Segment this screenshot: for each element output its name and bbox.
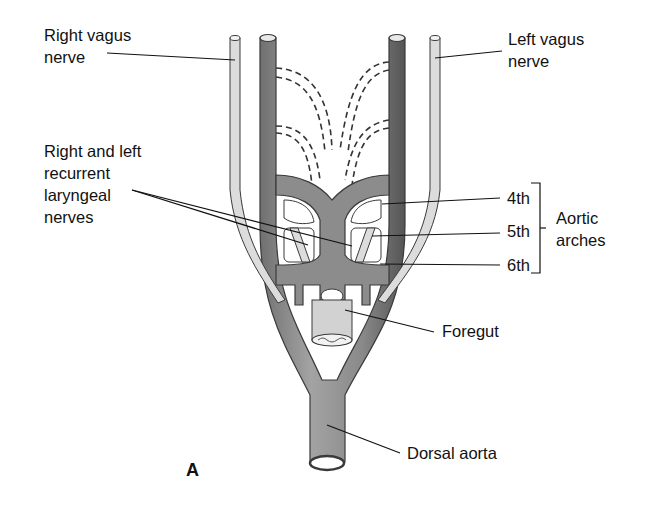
label-foregut: Foregut <box>442 320 499 342</box>
label-right-vagus-nerve: Right vagus nerve <box>44 24 131 68</box>
label-4th-arch: 4th <box>507 187 530 209</box>
label-5th-arch: 5th <box>507 220 530 242</box>
panel-letter: A <box>186 460 199 481</box>
regressed-arches-dashed <box>276 62 389 185</box>
label-6th-arch: 6th <box>507 254 530 276</box>
label-left-vagus-nerve: Left vagus nerve <box>508 28 584 72</box>
label-aortic-arches: Aortic arches <box>556 207 606 251</box>
label-recurrent-laryngeal-nerves: Right and left recurrent laryngeal nerve… <box>44 140 141 228</box>
label-dorsal-aorta: Dorsal aorta <box>407 442 497 464</box>
foregut <box>312 300 352 346</box>
aortic-arch-diagram <box>0 0 649 508</box>
